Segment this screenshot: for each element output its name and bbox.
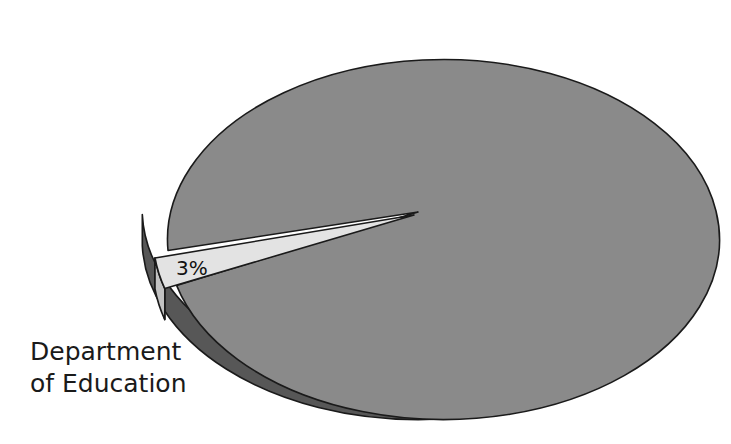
pie-chart-canvas: 3% Department of Education [0,0,731,444]
slice-data-label-percent: 3% [176,256,208,280]
slice-callout-label-line1: Department [30,337,181,366]
slice-callout-label-line2: of Education [30,369,187,398]
pie-chart-figure: 3% Department of Education [0,0,731,444]
